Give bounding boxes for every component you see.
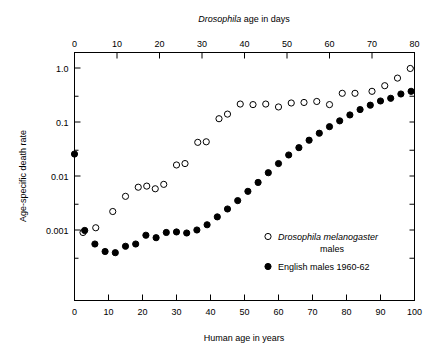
data-point-english [112, 250, 118, 256]
top-tick-label: 50 [282, 39, 292, 49]
data-point-drosophila [122, 193, 128, 199]
right-axis-ticks [410, 68, 415, 258]
data-point-english [388, 95, 394, 101]
bottom-tick-label: 60 [273, 307, 283, 317]
legend-marker-drosophila [265, 233, 271, 239]
bottom-tick-label: 30 [171, 307, 181, 317]
data-point-drosophila [161, 181, 167, 187]
data-point-english [347, 112, 353, 118]
data-point-english [357, 106, 363, 112]
data-point-english [163, 229, 169, 235]
data-point-english [82, 227, 88, 233]
legend-label-drosophila-sex: males [320, 244, 345, 254]
left-tick-label: 0.001 [46, 226, 69, 236]
data-point-english [245, 188, 251, 194]
data-point-english [408, 88, 414, 94]
top-tick-label: 10 [112, 39, 122, 49]
legend-label-drosophila-genus: Drosophila melanogaster [278, 232, 379, 242]
data-point-english [143, 232, 149, 238]
data-point-drosophila [224, 111, 230, 117]
data-point-english [265, 170, 271, 176]
bottom-tick-label: 50 [239, 307, 249, 317]
legend-marker-english [265, 263, 271, 269]
data-point-english [133, 241, 139, 247]
data-point-english [286, 152, 292, 158]
bottom-tick-label: 40 [205, 307, 215, 317]
top-axis-title: Drosophila age in days [198, 14, 290, 24]
data-point-drosophila [135, 184, 141, 190]
y-axis-title: Age-specific death rate [18, 130, 28, 222]
data-point-drosophila [250, 102, 256, 108]
data-point-english [204, 222, 210, 228]
top-tick-label: 80 [409, 39, 419, 49]
data-point-drosophila [152, 186, 158, 192]
data-point-english [377, 98, 383, 104]
bottom-tick-label: 80 [341, 307, 351, 317]
data-point-drosophila [352, 90, 358, 96]
data-point-drosophila [407, 65, 413, 71]
data-point-drosophila [314, 98, 320, 104]
top-tick-label: 60 [324, 39, 334, 49]
data-point-english [316, 130, 322, 136]
top-axis-title-rest: age in days [241, 14, 290, 24]
data-point-english [326, 124, 332, 130]
data-point-drosophila [369, 88, 375, 94]
data-point-english [224, 206, 230, 212]
data-point-english [296, 145, 302, 151]
top-axis-title-genus: Drosophila [198, 14, 241, 24]
data-point-drosophila [195, 139, 201, 145]
top-tick-label: 20 [154, 39, 164, 49]
top-axis-ticks: 01020304050607080 [72, 39, 420, 59]
top-tick-label: 0 [72, 39, 77, 49]
data-point-english [214, 214, 220, 220]
data-point-drosophila [144, 183, 150, 189]
data-point-english [173, 229, 179, 235]
data-point-drosophila [93, 225, 99, 231]
data-point-drosophila [394, 75, 400, 81]
left-tick-label: 1.0 [56, 64, 69, 74]
left-tick-label: 0.01 [51, 172, 69, 182]
data-point-english [398, 91, 404, 97]
series-english-males-1960-62 [71, 88, 414, 256]
data-point-drosophila [173, 162, 179, 168]
data-point-drosophila [237, 101, 243, 107]
data-point-drosophila [216, 116, 222, 122]
bottom-tick-label: 100 [407, 307, 422, 317]
data-point-english [92, 241, 98, 247]
data-point-english [194, 227, 200, 233]
data-point-english [184, 230, 190, 236]
bottom-tick-label: 70 [307, 307, 317, 317]
data-point-english [71, 151, 77, 157]
bottom-axis-ticks: 0102030405060708090100 [72, 295, 422, 317]
data-point-drosophila [326, 102, 332, 108]
data-point-english [275, 160, 281, 166]
data-point-english [255, 179, 261, 185]
bottom-tick-label: 20 [137, 307, 147, 317]
bottom-axis-title: Human age in years [204, 333, 285, 343]
data-point-english [102, 248, 108, 254]
data-point-drosophila [110, 208, 116, 214]
data-point-drosophila [275, 104, 281, 110]
bottom-tick-label: 90 [375, 307, 385, 317]
data-point-english [153, 235, 159, 241]
data-point-drosophila [203, 139, 209, 145]
left-tick-label: 0.1 [56, 118, 69, 128]
legend-label-drosophila: Drosophila melanogaster [278, 232, 379, 242]
series-drosophila-melanogaster-males [80, 65, 413, 235]
data-point-english [306, 137, 312, 143]
scatter-plot-canvas: Drosophila age in days 01020304050607080… [0, 0, 438, 354]
top-tick-label: 40 [239, 39, 249, 49]
data-point-drosophila [301, 99, 307, 105]
top-tick-label: 70 [367, 39, 377, 49]
data-point-drosophila [182, 160, 188, 166]
data-point-english [367, 102, 373, 108]
data-point-drosophila [288, 100, 294, 106]
data-point-drosophila [339, 90, 345, 96]
data-point-english [235, 198, 241, 204]
legend-label-english: English males 1960-62 [278, 262, 370, 272]
top-tick-label: 30 [197, 39, 207, 49]
data-point-english [122, 243, 128, 249]
data-point-english [337, 118, 343, 124]
data-point-drosophila [382, 83, 388, 89]
bottom-tick-label: 0 [72, 307, 77, 317]
